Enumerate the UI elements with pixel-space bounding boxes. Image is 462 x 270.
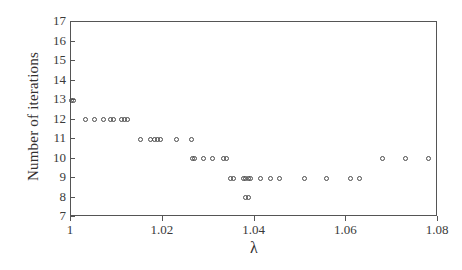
data-point xyxy=(189,137,194,142)
chart-figure: Number of iterations 7891011121314151617… xyxy=(0,0,462,270)
data-point xyxy=(380,156,385,161)
x-axis-label: λ xyxy=(70,239,438,257)
data-point xyxy=(348,176,353,181)
data-point xyxy=(426,156,431,161)
y-tick-mark xyxy=(70,80,75,81)
data-point xyxy=(357,176,362,181)
data-point xyxy=(111,117,116,122)
x-tick-mark xyxy=(70,216,71,221)
data-point xyxy=(403,156,408,161)
data-point xyxy=(277,176,282,181)
y-tick-mark xyxy=(70,138,75,139)
data-point xyxy=(83,117,88,122)
y-tick-mark xyxy=(70,158,75,159)
y-tick-label: 12 xyxy=(42,112,66,125)
data-point xyxy=(125,117,130,122)
y-tick-mark xyxy=(70,177,75,178)
y-tick-mark xyxy=(70,197,75,198)
data-point xyxy=(92,117,97,122)
y-tick-mark xyxy=(70,21,75,22)
data-point xyxy=(192,156,197,161)
y-tick-label: 13 xyxy=(42,92,66,105)
y-tick-label: 7 xyxy=(42,209,66,222)
x-tick-mark xyxy=(345,216,346,221)
x-tick-mark xyxy=(254,216,255,221)
x-tick-mark xyxy=(162,216,163,221)
x-tick-label: 1.02 xyxy=(132,222,192,238)
data-point xyxy=(101,117,106,122)
y-tick-mark xyxy=(70,60,75,61)
data-point xyxy=(210,156,215,161)
x-tick-label: 1.08 xyxy=(407,222,462,238)
data-point xyxy=(201,156,206,161)
data-point xyxy=(258,176,263,181)
y-tick-label: 15 xyxy=(42,53,66,66)
y-tick-label: 11 xyxy=(42,131,66,144)
y-tick-label: 8 xyxy=(42,190,66,203)
y-tick-label: 9 xyxy=(42,170,66,183)
y-tick-mark xyxy=(70,41,75,42)
y-tick-label: 14 xyxy=(42,73,66,86)
x-tick-label: 1.04 xyxy=(224,222,284,238)
plot-area xyxy=(70,21,437,216)
data-point xyxy=(174,137,179,142)
x-tick-mark xyxy=(437,216,438,221)
data-point xyxy=(246,195,251,200)
data-point xyxy=(138,137,143,142)
y-tick-label: 10 xyxy=(42,151,66,164)
data-point xyxy=(158,137,163,142)
data-point xyxy=(224,156,229,161)
y-tick-label: 16 xyxy=(42,34,66,47)
y-tick-mark xyxy=(70,119,75,120)
y-tick-label: 17 xyxy=(42,14,66,27)
y-tick-mark xyxy=(70,99,75,100)
data-point xyxy=(302,176,307,181)
data-point xyxy=(268,176,273,181)
data-point xyxy=(248,176,253,181)
data-point xyxy=(231,176,236,181)
x-tick-label: 1.06 xyxy=(315,222,375,238)
x-tick-label: 1 xyxy=(40,222,100,238)
data-point xyxy=(324,176,329,181)
